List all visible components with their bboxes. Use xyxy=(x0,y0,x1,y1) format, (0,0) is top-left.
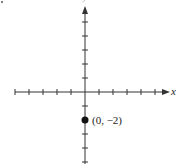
y-axis-label: y xyxy=(83,0,86,3)
x-axis-label: x xyxy=(171,86,176,97)
data-point xyxy=(82,117,89,124)
x-axis-arrow-icon xyxy=(162,89,170,95)
coordinate-plane xyxy=(0,0,176,166)
axes xyxy=(15,6,170,164)
point-label: (0, −2) xyxy=(92,115,122,126)
y-axis-arrow-icon xyxy=(82,6,88,14)
data-points xyxy=(82,117,89,124)
